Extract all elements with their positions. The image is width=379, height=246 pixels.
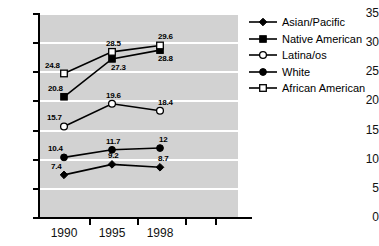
data-point [157,107,164,114]
data-label: 15.7 [47,113,62,122]
legend-item-native-american[interactable]: Native American [248,31,376,48]
data-point [60,171,68,179]
legend-marker-icon [248,80,278,96]
legend-label: Native American [278,33,362,45]
legend-marker-icon [248,14,278,30]
data-label: 7.4 [51,162,62,171]
data-label: 29.6 [158,32,173,41]
data-point [108,161,116,169]
data-label: 12 [159,135,168,144]
data-point [61,123,68,130]
data-point [61,70,68,77]
legend-item-white[interactable]: White [248,64,376,81]
data-label: 19.6 [106,91,121,100]
data-label: 28.5 [106,39,121,48]
legend-label: African American [278,82,365,94]
legend-label: White [278,66,310,78]
series-latina-os [61,100,164,130]
data-point [61,154,68,161]
data-label: 18.4 [158,98,173,107]
data-label: 20.8 [48,84,63,93]
data-label: 24.8 [45,61,60,70]
data-point [156,163,164,171]
data-point [157,42,164,49]
data-label: 8.7 [158,154,169,163]
data-point [157,145,164,152]
data-label: 28.8 [158,54,173,63]
data-point [109,56,116,63]
legend-marker-icon [248,64,278,80]
data-point [109,100,116,107]
data-label: 10.4 [48,144,63,153]
legend-marker-icon [248,47,278,63]
data-label: 27.3 [111,63,126,72]
legend-label: Latina/os [278,49,327,61]
legend-item-latina-os[interactable]: Latina/os [248,47,376,64]
data-point [109,49,116,56]
legend-item-african-american[interactable]: African American [248,80,376,97]
chart-legend: Asian/PacificNative AmericanLatina/osWhi… [248,14,376,97]
data-point [61,93,68,100]
data-label: 11.7 [106,137,120,146]
legend-marker-icon [248,31,278,47]
data-label: 9.2 [108,151,119,160]
legend-label: Asian/Pacific [278,16,345,28]
series-asian-pacific [60,161,164,179]
chart-root: 05101520253035 199019951998 7.49.28.720.… [0,0,379,246]
legend-item-asian-pacific[interactable]: Asian/Pacific [248,14,376,31]
